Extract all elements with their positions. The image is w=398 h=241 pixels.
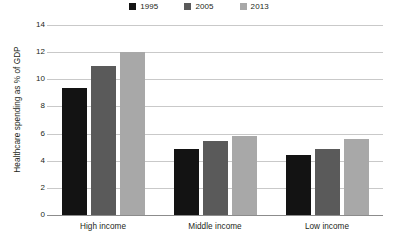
- bar-2013-high-income: [120, 52, 145, 215]
- square-swatch-icon: [129, 3, 136, 10]
- y-tick-label: 8: [25, 102, 45, 110]
- bar-group: [174, 25, 257, 215]
- plot-area: [47, 25, 383, 215]
- legend-item-2013: 2013: [240, 2, 269, 11]
- y-tick-label: 0: [25, 211, 45, 219]
- bar-1995-middle-income: [174, 149, 199, 216]
- y-tick-label: 4: [25, 157, 45, 165]
- legend-label-2005: 2005: [195, 2, 213, 11]
- healthcare-spending-bar-chart: 1995 2005 2013 Healthcare spending as % …: [0, 0, 398, 241]
- x-axis-line: [47, 215, 383, 216]
- legend-item-2005: 2005: [184, 2, 213, 11]
- x-tick-label: Middle income: [159, 222, 271, 231]
- y-tick-label: 12: [25, 48, 45, 56]
- y-axis-title: Healthcare spending as % of GDP: [13, 30, 22, 190]
- bar-2013-low-income: [344, 139, 369, 215]
- bar-group: [286, 25, 369, 215]
- bar-1995-low-income: [286, 155, 311, 215]
- chart-legend: 1995 2005 2013: [0, 2, 398, 11]
- x-tick-label: Low income: [271, 222, 383, 231]
- bar-2005-low-income: [315, 149, 340, 216]
- bar-2005-high-income: [91, 66, 116, 215]
- y-tick-label: 2: [25, 184, 45, 192]
- legend-label-1995: 1995: [140, 2, 158, 11]
- y-tick-label: 10: [25, 75, 45, 83]
- square-swatch-icon: [184, 3, 191, 10]
- y-tick-label: 6: [25, 130, 45, 138]
- y-tick-label: 14: [25, 21, 45, 29]
- square-swatch-icon: [240, 3, 247, 10]
- bar-2005-middle-income: [203, 141, 228, 215]
- bar-1995-high-income: [62, 88, 87, 215]
- x-tick-label: High income: [47, 222, 159, 231]
- bar-group: [62, 25, 145, 215]
- legend-item-1995: 1995: [129, 2, 158, 11]
- legend-label-2013: 2013: [251, 2, 269, 11]
- bar-2013-middle-income: [232, 136, 257, 215]
